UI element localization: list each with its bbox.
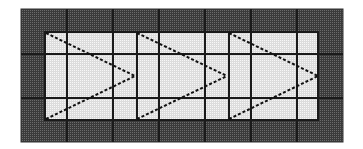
inner-border [45,32,318,120]
outer-border [21,9,343,142]
drawing-overlay [0,0,363,149]
grid-paper-canvas [0,0,363,149]
